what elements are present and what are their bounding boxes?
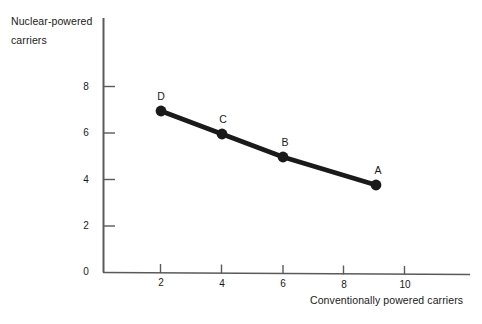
y-tick-label-0: 0 (75, 266, 97, 277)
data-point-D[interactable] (156, 106, 167, 117)
y-tick-label-8: 8 (75, 81, 97, 92)
x-tick-label-6: 6 (272, 278, 294, 289)
y-tick-label-2: 2 (75, 220, 97, 231)
y-tick-label-4: 4 (75, 174, 97, 185)
x-axis-title: Conventionally powered carriers (310, 294, 463, 306)
x-axis-line (103, 273, 470, 275)
data-point-C[interactable] (217, 129, 228, 140)
data-point-A[interactable] (371, 180, 382, 191)
x-tick-label-4: 4 (211, 278, 233, 289)
data-point-label-B: B (277, 136, 293, 148)
data-point-label-D: D (153, 90, 169, 102)
y-axis-ticks (103, 87, 115, 227)
chart-page: Nuclear-powered carriers Conventionally … (0, 0, 482, 324)
y-axis-title-line2: carriers (11, 31, 92, 50)
data-point-label-A: A (370, 164, 386, 176)
x-tick-label-2: 2 (150, 277, 172, 288)
y-axis-title-line1: Nuclear-powered (11, 12, 92, 31)
data-point-label-C: C (215, 113, 231, 125)
x-tick-label-10: 10 (394, 279, 416, 290)
x-tick-label-8: 8 (333, 279, 355, 290)
y-tick-label-6: 6 (75, 127, 97, 138)
data-line (161, 111, 376, 185)
data-point-B[interactable] (278, 152, 289, 163)
y-axis-title: Nuclear-powered carriers (11, 12, 92, 50)
